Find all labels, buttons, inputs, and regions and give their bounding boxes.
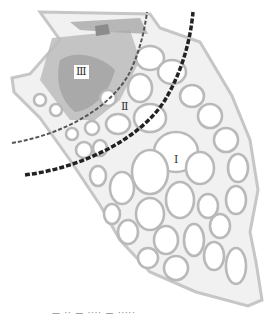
anatomical-figure: Ⅲ Ⅱ Ⅰ — ·· — ···· — ····· (0, 0, 272, 318)
zone-3-label: Ⅲ (74, 65, 89, 79)
zone-2-label: Ⅱ (119, 100, 130, 114)
zone-1-label: Ⅰ (172, 153, 180, 167)
figure-caption: — ·· — ···· — ····· (52, 309, 272, 318)
vascular-network-illustration (0, 0, 272, 318)
